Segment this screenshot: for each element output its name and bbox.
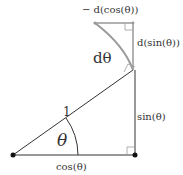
sin-label: sin(θ): [137, 111, 166, 122]
arc-corner-point: [132, 22, 135, 25]
hypotenuse-label: 1: [63, 105, 71, 119]
foot-point: [133, 153, 138, 158]
unit-circle-derivative-diagram: − d(cos(θ)) d(sin(θ)) dθ 1 θ sin(θ) cos(…: [0, 0, 183, 175]
theta-angle-arc: [66, 118, 78, 155]
origin-point: [11, 153, 16, 158]
theta-label: θ: [57, 130, 67, 150]
right-angle-marker-top: [125, 23, 133, 30]
cos-label: cos(θ): [56, 161, 87, 172]
dsin-label: d(sin(θ)): [137, 37, 180, 48]
neg-dcos-label: − d(cos(θ)): [82, 4, 138, 15]
arc-start-point: [93, 21, 96, 24]
dtheta-label: dθ: [93, 49, 112, 67]
hypotenuse-line: [13, 70, 133, 155]
